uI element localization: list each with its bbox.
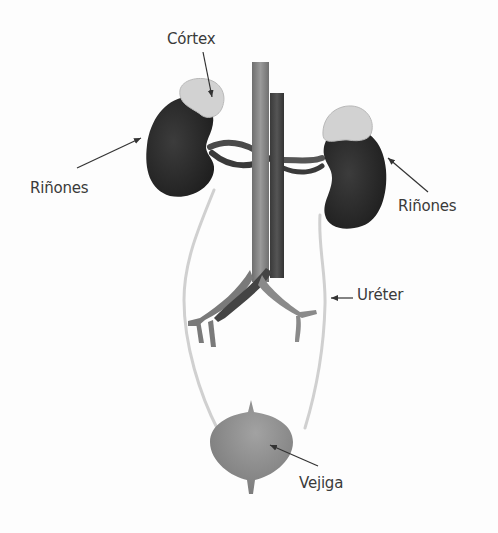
bladder: [210, 400, 293, 494]
urinary-system-diagram: Córtex Riñones Riñones Uréter Vejiga: [0, 0, 498, 533]
right-kidney-arrow: [388, 158, 428, 192]
right-ureter: [305, 215, 325, 428]
kidneys-right-label: Riñones: [398, 199, 456, 214]
left-kidney-arrow: [77, 138, 141, 168]
bladder-label: Vejiga: [299, 476, 343, 491]
right-adrenal-cortex: [323, 106, 372, 141]
kidneys-left-label: Riñones: [30, 181, 88, 196]
anatomy-illustration: [0, 0, 498, 533]
cortex-label: Córtex: [167, 32, 215, 47]
right-kidney: [324, 128, 387, 229]
ureter-label: Uréter: [357, 288, 403, 303]
